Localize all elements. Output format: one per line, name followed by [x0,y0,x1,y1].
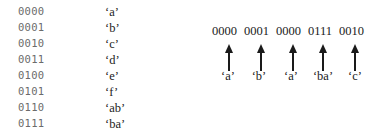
symbol-value: ‘d’ [105,53,120,68]
symbol-value: ‘f’ [105,85,118,100]
code-value: 0111 [18,117,45,129]
stream-code: 0010 [339,24,364,39]
decoded-symbol-label: ‘c’ [348,69,362,84]
stream-code: 0000 [212,24,237,39]
code-value: 0000 [18,5,45,17]
symbol-value: ‘a’ [105,5,119,20]
decoded-symbol-label: ‘a’ [284,69,298,84]
code-value: 0010 [18,37,45,49]
stream-code: 0000 [276,24,301,39]
code-value: 0001 [18,21,45,33]
code-value: 0101 [18,85,45,97]
decoded-symbol-label: ‘b’ [252,69,267,84]
symbol-value: ‘c’ [105,37,119,52]
code-value: 0110 [18,101,45,113]
code-value: 0011 [18,53,45,65]
symbol-value: ‘e’ [105,69,119,84]
decoded-symbol-label: ‘ba’ [313,69,333,84]
symbol-value: ‘ab’ [105,101,125,116]
symbol-value: ‘b’ [105,21,120,36]
stream-code: 0111 [308,24,332,39]
stream-code: 0001 [244,24,269,39]
symbol-value: ‘ba’ [105,117,125,132]
decoded-symbol-label: ‘a’ [221,69,235,84]
code-value: 0100 [18,69,45,81]
